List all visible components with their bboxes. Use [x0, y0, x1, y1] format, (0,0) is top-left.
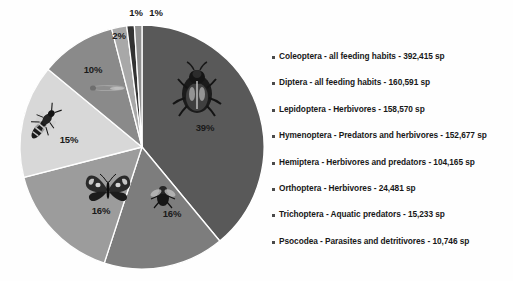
legend-item-trichoptera[interactable]: Trichoptera - Aquatic predators - 15,233… [272, 210, 513, 236]
pie-chart: 39%16%16%15%10%2%1%1% [0, 0, 270, 281]
slice-percentage-label: 10% [84, 65, 103, 75]
legend-item-coleoptera[interactable]: Coleoptera - all feeding habits - 392,41… [272, 52, 513, 78]
chart-figure: 39%16%16%15%10%2%1%1% Coleoptera - all f… [0, 0, 513, 281]
square-bullet-icon [272, 135, 275, 138]
pie-slices [20, 25, 264, 269]
legend-item-orthoptera[interactable]: Orthoptera - Herbivores - 24,481 sp [272, 184, 513, 210]
legend-item-label: Psocodea - Parasites and detritivores - … [279, 237, 469, 247]
square-bullet-icon [272, 188, 275, 191]
square-bullet-icon [272, 82, 275, 85]
square-bullet-icon [272, 56, 275, 59]
square-bullet-icon [272, 214, 275, 217]
legend-item-label: Hemiptera - Herbivores and predators - 1… [279, 158, 475, 168]
legend-item-hymenoptera[interactable]: Hymenoptera - Predators and herbivores -… [272, 131, 513, 157]
pie-chart-svg [0, 0, 270, 281]
legend-item-lepidoptera[interactable]: Lepidoptera - Herbivores - 158,570 sp [272, 105, 513, 131]
slice-percentage-label: 15% [60, 135, 79, 145]
legend-item-label: Hymenoptera - Predators and herbivores -… [279, 131, 487, 141]
square-bullet-icon [272, 109, 275, 112]
legend-item-label: Lepidoptera - Herbivores - 158,570 sp [279, 105, 425, 115]
legend-item-psocodea[interactable]: Psocodea - Parasites and detritivores - … [272, 237, 513, 263]
square-bullet-icon [272, 162, 275, 165]
slice-percentage-label: 1% [129, 8, 143, 18]
slice-percentage-label: 2% [112, 31, 126, 41]
legend-item-label: Coleoptera - all feeding habits - 392,41… [279, 52, 445, 62]
square-bullet-icon [272, 241, 275, 244]
slice-percentage-label: 16% [163, 209, 182, 219]
legend-item-label: Diptera - all feeding habits - 160,591 s… [279, 78, 430, 88]
legend: Coleoptera - all feeding habits - 392,41… [272, 52, 513, 263]
legend-item-label: Orthoptera - Herbivores - 24,481 sp [279, 184, 416, 194]
legend-item-diptera[interactable]: Diptera - all feeding habits - 160,591 s… [272, 78, 513, 104]
legend-item-hemiptera[interactable]: Hemiptera - Herbivores and predators - 1… [272, 158, 513, 184]
slice-percentage-label: 16% [92, 206, 111, 216]
legend-item-label: Trichoptera - Aquatic predators - 15,233… [279, 210, 445, 220]
slice-percentage-label: 1% [149, 8, 163, 18]
slice-percentage-label: 39% [196, 123, 215, 133]
